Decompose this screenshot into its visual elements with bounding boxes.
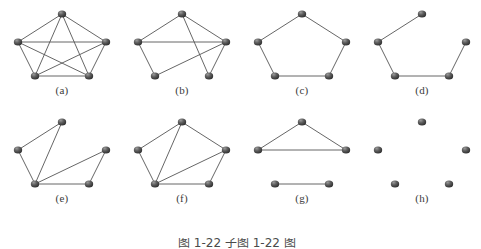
vertex-top [178,10,186,17]
edge-group [138,122,226,184]
graph-label-c: (c) [242,84,362,96]
edge-left-bottom-left [138,42,155,76]
edge-top-left [18,122,62,150]
edge-bottom-right-right [449,42,466,76]
vertex-bottom-right [85,72,93,79]
edge-right-bottom-right [329,42,346,76]
vertex-left [14,146,22,153]
edge-group [258,122,346,184]
vertex-bottom-left [151,72,159,79]
edge-group [138,14,226,76]
vertex-left [374,146,382,153]
vertex-right [462,38,470,45]
edge-top-left [258,122,302,150]
edge-right-bottom-right [209,150,226,184]
graph-label-g: (g) [242,192,362,204]
edge-top-left [258,14,302,42]
edge-group [258,14,346,76]
edge-left-bottom-left [378,42,395,76]
edge-group [18,14,106,76]
vertex-right [342,38,350,45]
vertex-top [418,10,426,17]
vertex-group [14,118,110,187]
graph-label-b: (b) [122,84,242,96]
graph-label-a: (a) [2,84,122,96]
graph-label-f: (f) [122,192,242,204]
vertex-bottom-left [31,72,39,79]
vertex-bottom-right [325,180,333,187]
vertex-group [254,118,350,187]
vertex-top [298,10,306,17]
vertex-bottom-left [271,180,279,187]
edge-right-bottom-right [89,42,106,76]
graph-cell-d: (d) [362,2,481,110]
graph-diagram-g [242,110,362,198]
edge-top-bottom-left [35,122,62,184]
graph-diagram-d [362,2,481,90]
vertex-group [134,10,230,79]
graph-cell-b: (b) [122,2,242,110]
vertex-left [254,146,262,153]
vertex-left [14,38,22,45]
edge-right-bottom-left [35,42,106,76]
edge-left-bottom-left [18,42,35,76]
vertex-bottom-right [445,72,453,79]
vertex-group [14,10,110,79]
edge-top-left [18,14,62,42]
vertex-bottom-left [391,180,399,187]
graph-diagram-a [2,2,122,90]
vertex-bottom-right [445,180,453,187]
edge-top-right [182,122,226,150]
edge-left-bottom-left [258,42,275,76]
edge-top-left [138,14,182,42]
vertex-left [134,38,142,45]
graph-diagram-b [122,2,242,90]
graph-label-e: (e) [2,192,122,204]
edge-top-bottom-left [155,122,182,184]
vertex-right [102,146,110,153]
edge-top-left [138,122,182,150]
graph-diagram-h [362,110,481,198]
figure-caption: 图 1-22 子图 1-22 图 [178,238,296,249]
vertex-group [374,10,470,79]
vertex-top [418,118,426,125]
figure-caption-strip: 图 1-22 子图 1-22 图 [0,238,481,249]
edge-top-bottom-right [182,14,209,76]
graph-diagram-c [242,2,362,90]
edge-top-right [62,14,106,42]
vertex-right [342,146,350,153]
edge-left-bottom-left [138,150,155,184]
vertex-right [222,146,230,153]
vertex-group [134,118,230,187]
edge-top-right [302,122,346,150]
vertex-top [178,118,186,125]
edge-top-right [182,14,226,42]
vertex-right [102,38,110,45]
edge-left-bottom-left [18,150,35,184]
vertex-group [254,10,350,79]
edge-top-bottom-right [62,14,89,76]
edge-right-bottom-left [155,42,226,76]
edge-bottom-left-right [35,150,106,184]
graph-diagram-f [122,110,242,198]
graph-cell-f: (f) [122,110,242,218]
vertex-bottom-right [325,72,333,79]
vertex-bottom-right [205,180,213,187]
vertex-top [58,118,66,125]
graph-label-d: (d) [362,84,481,96]
vertex-left [254,38,262,45]
vertex-bottom-right [85,180,93,187]
edge-top-bottom-left [35,14,62,76]
graph-cell-h: (h) [362,110,481,218]
vertex-bottom-left [391,72,399,79]
edge-group [378,14,466,76]
edge-right-bottom-right [209,42,226,76]
edge-right-bottom-left [155,150,226,184]
graph-cell-c: (c) [242,2,362,110]
vertex-left [134,146,142,153]
vertex-bottom-left [31,180,39,187]
vertex-bottom-left [271,72,279,79]
vertex-right [462,146,470,153]
graph-label-h: (h) [362,192,481,204]
figure-subgraph-family: (a)(b)(c)(d)(e)(f)(g)(h) [0,0,481,249]
